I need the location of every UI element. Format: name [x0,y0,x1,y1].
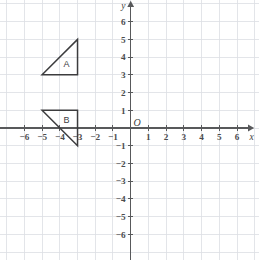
y-tick-label: −5 [116,212,126,222]
x-axis-name: x [249,132,255,142]
x-axis-arrowhead [248,125,254,132]
x-tick-label: 3 [182,132,187,142]
y-tick-label: 6 [121,17,126,27]
x-tick-label: −6 [19,132,29,142]
y-tick-label: −2 [116,159,126,169]
x-tick-label: −2 [90,132,100,142]
shape-label-a: A [64,59,70,69]
y-axis-name: y [120,1,126,11]
x-tick-label: 2 [164,132,169,142]
x-tick-label: −4 [55,132,65,142]
origin-label: O [134,117,141,128]
y-tick-label: −1 [116,141,126,151]
x-tick-label: 5 [217,132,222,142]
coordinate-plane-figure: −6−5−4−3−2−1123456654321−1−2−3−4−5−6O AB… [0,0,259,260]
x-tick-label: 6 [235,132,240,142]
x-tick-label: 4 [199,132,204,142]
y-tick-label: 5 [121,35,126,45]
y-tick-label: 4 [121,52,126,62]
x-tick-label: −5 [37,132,47,142]
shape-label-b: B [64,115,70,125]
y-tick-label: 1 [121,106,126,116]
y-tick-label: 2 [121,88,126,98]
y-tick-label: −6 [116,230,126,240]
coordinate-plane-svg: −6−5−4−3−2−1123456654321−1−2−3−4−5−6O AB… [0,0,259,260]
y-tick-label: 3 [121,70,126,80]
y-tick-label: −4 [116,194,126,204]
x-tick-label: 1 [146,132,151,142]
y-tick-label: −3 [116,176,126,186]
